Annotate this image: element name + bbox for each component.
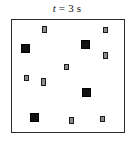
large-particle-3 xyxy=(82,88,91,97)
small-particle-6 xyxy=(41,78,46,86)
caption-unit: s xyxy=(74,2,81,14)
small-particle-5 xyxy=(24,75,29,81)
small-particle-1 xyxy=(42,26,47,33)
small-particle-2 xyxy=(103,27,108,33)
particle-box-figure: t = 3 s xyxy=(0,0,134,142)
figure-caption: t = 3 s xyxy=(0,1,134,15)
small-particle-3 xyxy=(103,52,108,59)
small-particle-4 xyxy=(64,64,69,70)
large-particle-4 xyxy=(30,113,39,122)
small-particle-7 xyxy=(69,117,74,124)
small-particle-8 xyxy=(100,116,105,122)
caption-operator: = xyxy=(56,2,68,14)
large-particle-2 xyxy=(81,40,90,49)
container-box xyxy=(11,19,125,133)
large-particle-5 xyxy=(21,44,30,53)
